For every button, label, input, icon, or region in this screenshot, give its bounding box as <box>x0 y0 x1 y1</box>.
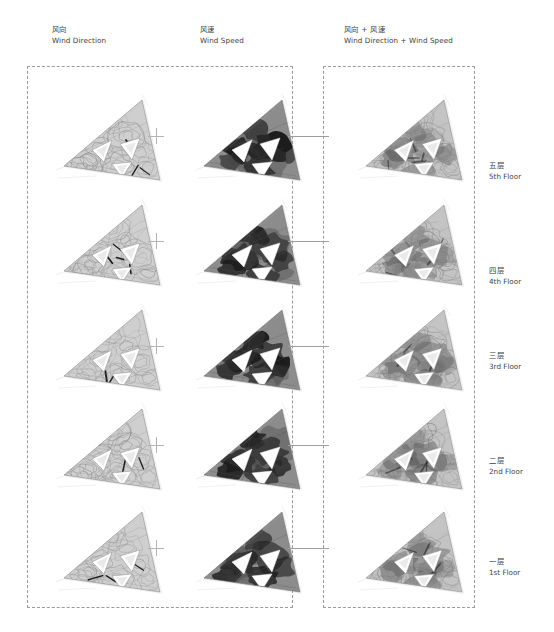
floor-label-4th: 四层 4th Floor <box>489 265 521 287</box>
floor-label-cn: 四层 <box>489 265 521 276</box>
floor-label-5th: 五层 5th Floor <box>489 160 521 182</box>
plan-wind-speed-floor-2 <box>196 397 316 505</box>
plan-wind-direction-plus-speed-floor-5 <box>358 88 478 196</box>
column-header-cn: 风向 + 风速 <box>344 24 453 35</box>
plan-wind-speed-floor-4 <box>196 193 316 301</box>
result-connector-floor-5 <box>288 136 329 137</box>
result-connector-floor-3 <box>288 346 329 347</box>
floor-label-3rd: 三层 3rd Floor <box>489 350 521 372</box>
plan-wind-speed-floor-3 <box>196 298 316 406</box>
floor-label-en: 4th Floor <box>489 276 521 287</box>
column-header-wind-direction-plus-speed: 风向 + 风速 Wind Direction + Wind Speed <box>344 24 453 46</box>
floor-label-en: 3rd Floor <box>489 361 521 372</box>
column-header-wind-direction: 风向 Wind Direction <box>52 24 106 46</box>
plan-wind-direction-plus-speed-floor-3 <box>358 298 478 406</box>
plus-operator-floor-5 <box>148 128 164 144</box>
column-header-cn: 风速 <box>200 24 244 35</box>
result-connector-floor-4 <box>288 241 329 242</box>
plus-operator-floor-4 <box>148 233 164 249</box>
floor-label-en: 1st Floor <box>489 567 520 578</box>
column-header-en: Wind Speed <box>200 35 244 46</box>
plan-wind-direction-plus-speed-floor-2 <box>358 397 478 505</box>
column-header-en: Wind Direction + Wind Speed <box>344 35 453 46</box>
column-header-en: Wind Direction <box>52 35 106 46</box>
floor-label-en: 2nd Floor <box>489 466 523 477</box>
floor-label-2nd: 二层 2nd Floor <box>489 455 523 477</box>
floor-label-1st: 一层 1st Floor <box>489 556 520 578</box>
plan-wind-speed-floor-1 <box>196 500 316 608</box>
plan-wind-speed-floor-5 <box>196 88 316 196</box>
column-header-wind-speed: 风速 Wind Speed <box>200 24 244 46</box>
column-header-cn: 风向 <box>52 24 106 35</box>
result-connector-floor-1 <box>288 548 329 549</box>
plus-operator-floor-3 <box>148 338 164 354</box>
floor-label-cn: 三层 <box>489 350 521 361</box>
result-connector-floor-2 <box>288 445 329 446</box>
plus-operator-floor-1 <box>148 540 164 556</box>
floor-label-cn: 二层 <box>489 455 523 466</box>
plan-wind-direction-plus-speed-floor-4 <box>358 193 478 301</box>
floor-label-en: 5th Floor <box>489 171 521 182</box>
floor-label-cn: 一层 <box>489 556 520 567</box>
plan-wind-direction-plus-speed-floor-1 <box>358 500 478 608</box>
floor-label-cn: 五层 <box>489 160 521 171</box>
plus-operator-floor-2 <box>148 437 164 453</box>
